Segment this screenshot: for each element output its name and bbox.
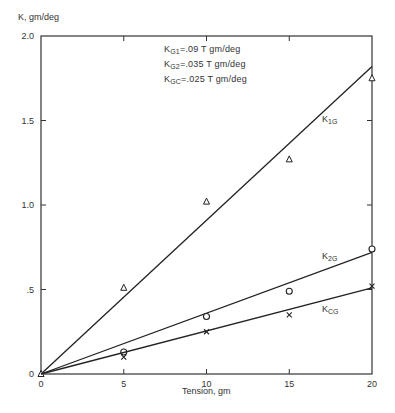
y-axis-label: K, gm/deg	[18, 12, 59, 22]
circle-marker	[204, 314, 210, 320]
x-marker	[287, 312, 292, 317]
circle-marker	[286, 288, 292, 294]
x-tick-label: 5	[121, 379, 126, 389]
x-tick-label: 0	[38, 379, 43, 389]
fit-line-k1g	[41, 66, 372, 374]
circle-marker	[369, 246, 375, 252]
fit-line-kcg	[41, 288, 372, 374]
x-axis-label: Tension, gm	[182, 386, 231, 396]
x-tick-label: 15	[284, 379, 294, 389]
y-tick-label: 1.0	[21, 200, 34, 210]
line-label-k2g: K2G	[322, 251, 337, 262]
triangle-marker	[121, 284, 127, 290]
triangle-marker	[369, 75, 375, 81]
annotation-kg2: KG2=.035 T gm/deg	[164, 59, 246, 70]
triangle-marker	[286, 156, 292, 162]
y-tick-label: 0	[29, 369, 34, 379]
y-tick-label: 1.5	[21, 116, 34, 126]
line-label-kcg: KCG	[322, 304, 339, 315]
x-tick-label: 20	[367, 379, 377, 389]
triangle-marker	[204, 198, 210, 204]
line-label-k1g: K1G	[322, 114, 337, 125]
annotation-kgc: KGC=.025 T gm/deg	[164, 74, 247, 85]
y-tick-label: .5	[26, 285, 34, 295]
y-tick-label: 2.0	[21, 31, 34, 41]
plot-frame	[41, 36, 372, 374]
annotation-kg1: KG1=.09 T gm/deg	[164, 44, 241, 55]
